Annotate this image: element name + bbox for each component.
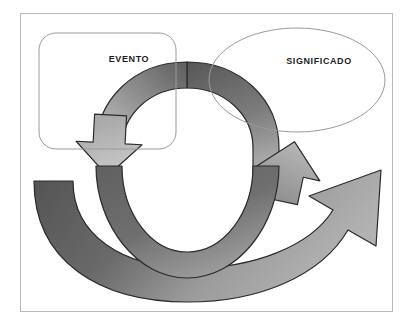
diagram-frame: EVENTO SIGNIFICADO bbox=[20, 13, 393, 312]
inner-arrow-to-evento bbox=[74, 62, 187, 178]
outer-arrow-body bbox=[34, 170, 381, 302]
diagram-canvas: EVENTO SIGNIFICADO bbox=[0, 0, 413, 326]
outer-sweep-arrow bbox=[34, 170, 381, 302]
inner-right-band bbox=[187, 62, 279, 174]
significado-label: SIGNIFICADO bbox=[266, 56, 372, 66]
evento-label: EVENTO bbox=[89, 54, 169, 64]
